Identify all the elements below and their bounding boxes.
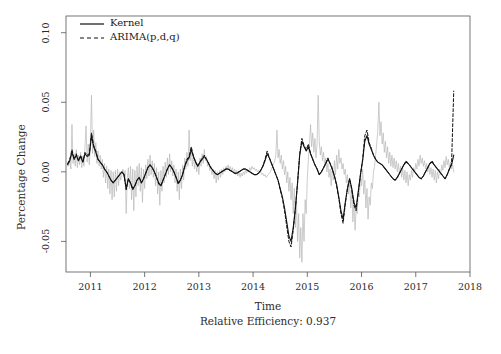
x-tick-label: 2018 (450, 281, 490, 292)
x-tick-label: 2016 (342, 281, 382, 292)
chart-figure: Percentage Change -0.050.000.050.10 2011… (0, 0, 501, 354)
x-tick-label: 2015 (287, 281, 327, 292)
tick-marks (61, 33, 470, 277)
y-tick-label: 0.10 (39, 19, 53, 47)
x-tick-label: 2011 (70, 281, 110, 292)
series-arima-line (68, 91, 454, 247)
y-tick-label: 0.05 (39, 88, 53, 116)
legend-label: Kernel (110, 17, 143, 28)
y-tick-label: -0.05 (39, 227, 53, 255)
x-tick-label: 2017 (396, 281, 436, 292)
legend-line-samples (80, 24, 104, 38)
y-axis-title: Percentage Change (10, 0, 32, 354)
x-tick-label: 2014 (233, 281, 273, 292)
legend-label: ARIMA(p,d,q) (110, 31, 180, 42)
plot-frame (66, 16, 470, 272)
chart-caption: Relative Efficiency: 0.937 (66, 315, 470, 327)
y-tick-label: 0.00 (39, 158, 53, 186)
x-axis-title: Time (66, 300, 470, 312)
y-axis-title-container: Percentage Change (4, 0, 28, 354)
x-tick-label: 2013 (179, 281, 219, 292)
x-tick-label: 2012 (125, 281, 165, 292)
